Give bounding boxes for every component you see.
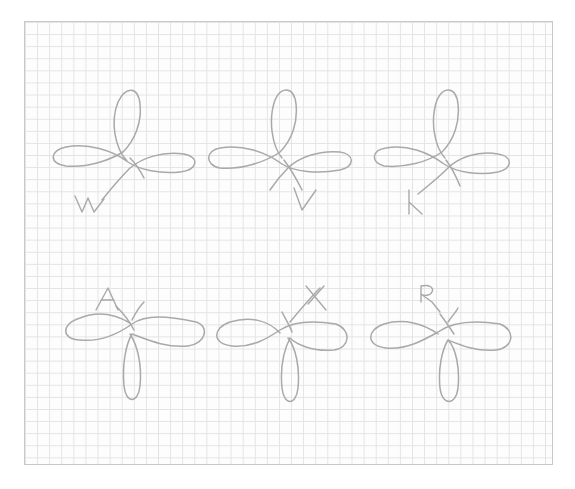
letter-x [306, 286, 326, 310]
knot-motif-a [66, 288, 205, 400]
letter-v [294, 188, 316, 210]
knot-motif-k [374, 90, 509, 214]
knot-motif-v [209, 90, 352, 210]
knot-motif-r [371, 285, 511, 401]
sketch-canvas [0, 0, 575, 489]
letter-r [421, 285, 440, 312]
knot-motif-x [217, 286, 347, 402]
letter-a [96, 288, 118, 310]
letter-w [75, 196, 104, 212]
knot-motif-w [53, 90, 195, 212]
letter-k [409, 190, 422, 214]
